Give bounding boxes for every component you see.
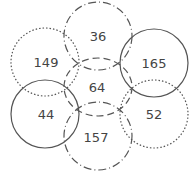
region-label-upper-left: 149 <box>34 55 59 70</box>
region-label-lower-right: 52 <box>146 107 163 122</box>
region-label-center: 64 <box>89 80 106 95</box>
region-label-lower-left: 44 <box>38 107 55 122</box>
region-label-top: 36 <box>90 29 107 44</box>
region-label-bottom: 157 <box>84 130 109 145</box>
region-label-upper-right: 165 <box>142 56 167 71</box>
